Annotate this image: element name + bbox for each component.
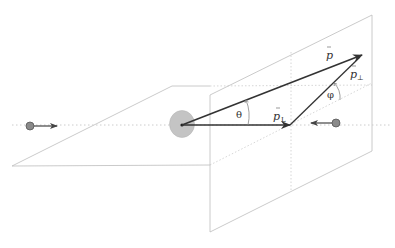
momentum-vector: [182, 55, 362, 125]
label-p-perp: p ⊥: [350, 66, 364, 82]
label-p: p: [326, 47, 333, 62]
momentum-diagram: p p ⊥ p L θ φ: [0, 0, 395, 248]
p-perp-label: p: [350, 68, 357, 81]
p-longitudinal-subscript: L: [281, 116, 286, 124]
theta-label: θ: [236, 109, 242, 120]
theta-arc: [246, 100, 249, 125]
incoming-particle-left: [26, 122, 57, 130]
p-vector-label: p: [326, 49, 333, 62]
incoming-particle-right: [311, 119, 340, 127]
p-perp-subscript: ⊥: [357, 74, 364, 82]
p-longitudinal-label: p: [273, 110, 280, 123]
label-p-longitudinal: p L: [273, 108, 286, 124]
interaction-point: [170, 111, 195, 138]
phi-label: φ: [327, 89, 334, 100]
